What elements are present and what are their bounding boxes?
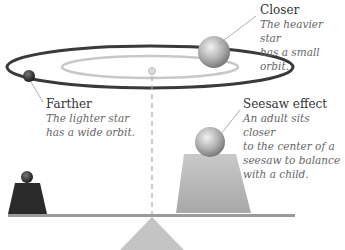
label-closer-desc1: The heavier star — [260, 17, 345, 45]
outer-orbit — [7, 46, 293, 88]
child-weight — [8, 183, 47, 214]
label-seesaw: Seesaw effect An adult sits closer to th… — [243, 97, 345, 181]
heavy-star — [198, 36, 230, 68]
label-farther-desc1: The lighter star — [46, 111, 135, 125]
label-closer-title: Closer — [260, 3, 345, 17]
label-farther-title: Farther — [46, 97, 135, 111]
label-closer: Closer The heavier star has a small orbi… — [260, 3, 345, 73]
barycenter-diagram: Closer The heavier star has a small orbi… — [0, 0, 345, 250]
label-seesaw-desc1: An adult sits closer — [243, 111, 345, 139]
label-farther: Farther The lighter star has a wide orbi… — [46, 97, 135, 139]
label-farther-desc2: has a wide orbit. — [46, 125, 135, 139]
leader-seesaw — [221, 110, 240, 134]
child-head — [21, 171, 33, 183]
label-closer-desc2: has a small orbit. — [260, 45, 345, 73]
light-star — [23, 70, 35, 82]
barycenter-dot — [149, 68, 156, 75]
adult-head — [195, 127, 225, 157]
leader-farther — [31, 82, 43, 102]
label-seesaw-desc4: with a child. — [243, 167, 345, 181]
label-seesaw-title: Seesaw effect — [243, 97, 345, 111]
seesaw-board — [8, 214, 295, 217]
label-seesaw-desc3: seesaw to balance — [243, 153, 345, 167]
label-seesaw-desc2: to the center of a — [243, 139, 345, 153]
adult-weight — [176, 154, 251, 213]
fulcrum — [120, 217, 184, 250]
leader-closer — [219, 16, 256, 44]
